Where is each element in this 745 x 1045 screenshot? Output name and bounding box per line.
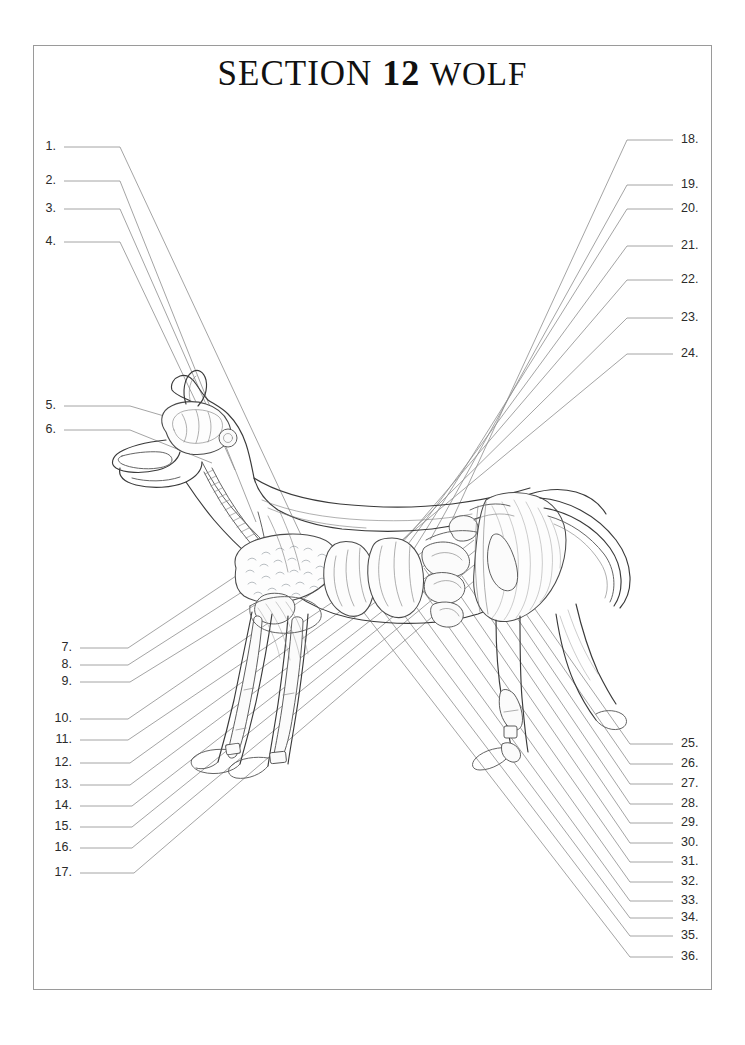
label-1[interactable]: 1. [46, 139, 56, 153]
label-4[interactable]: 4. [46, 234, 56, 248]
label-10[interactable]: 10. [55, 711, 72, 725]
label-7[interactable]: 7. [62, 640, 72, 654]
label-17[interactable]: 17. [55, 865, 72, 879]
label-21[interactable]: 21. [681, 238, 698, 252]
label-13[interactable]: 13. [55, 777, 72, 791]
label-19[interactable]: 19. [681, 177, 698, 191]
worksheet-page: SECTION 12 WOLF [0, 0, 745, 1045]
title-prefix: SECTION [218, 54, 373, 93]
label-24[interactable]: 24. [681, 346, 698, 360]
label-20[interactable]: 20. [681, 201, 698, 215]
label-12[interactable]: 12. [55, 755, 72, 769]
label-9[interactable]: 9. [62, 674, 72, 688]
label-6[interactable]: 6. [46, 422, 56, 436]
label-33[interactable]: 33. [681, 893, 698, 907]
page-title: SECTION 12 WOLF [33, 52, 712, 94]
label-31[interactable]: 31. [681, 854, 698, 868]
label-14[interactable]: 14. [55, 798, 72, 812]
label-5[interactable]: 5. [46, 398, 56, 412]
title-subject: WOLF [430, 56, 528, 92]
label-15[interactable]: 15. [55, 819, 72, 833]
label-34[interactable]: 34. [681, 910, 698, 924]
label-22[interactable]: 22. [681, 272, 698, 286]
label-25[interactable]: 25. [681, 736, 698, 750]
label-29[interactable]: 29. [681, 815, 698, 829]
label-2[interactable]: 2. [46, 173, 56, 187]
label-18[interactable]: 18. [681, 132, 698, 146]
label-32[interactable]: 32. [681, 874, 698, 888]
label-16[interactable]: 16. [55, 840, 72, 854]
label-8[interactable]: 8. [62, 657, 72, 671]
label-23[interactable]: 23. [681, 310, 698, 324]
label-36[interactable]: 36. [681, 949, 698, 963]
page-border [33, 45, 712, 990]
label-26[interactable]: 26. [681, 756, 698, 770]
label-11[interactable]: 11. [56, 732, 72, 746]
label-30[interactable]: 30. [681, 835, 698, 849]
label-3[interactable]: 3. [46, 201, 56, 215]
label-27[interactable]: 27. [681, 776, 698, 790]
title-number: 12 [382, 53, 420, 93]
label-28[interactable]: 28. [681, 796, 698, 810]
label-35[interactable]: 35. [681, 928, 698, 942]
